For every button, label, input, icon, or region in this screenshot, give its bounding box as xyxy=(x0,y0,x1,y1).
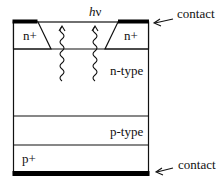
bottom-contact-arrow-icon xyxy=(156,168,173,175)
p-plus-label: p+ xyxy=(22,151,36,166)
top-contact-right xyxy=(118,20,149,24)
bottom-contact xyxy=(13,171,150,176)
top-contact-label: contact xyxy=(177,6,215,21)
device-diagram: hν n+ n+ n-type p-type p+ contact contac… xyxy=(0,0,222,184)
n-plus-left-label: n+ xyxy=(23,28,37,43)
top-contact-left xyxy=(13,20,38,24)
photon-wave-right-icon xyxy=(92,26,98,81)
n-plus-right-label: n+ xyxy=(124,28,138,43)
photon-wave-left-icon xyxy=(59,26,65,81)
n-type-label: n-type xyxy=(110,63,143,78)
bottom-contact-label: contact xyxy=(178,157,216,172)
photon-label: hν xyxy=(89,4,102,19)
top-contact-arrow-icon xyxy=(154,19,173,26)
p-type-label: p-type xyxy=(110,124,143,139)
